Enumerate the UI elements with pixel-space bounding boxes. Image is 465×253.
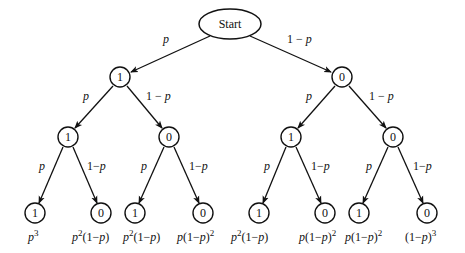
edge-l2a-l3b: [73, 147, 97, 203]
edge-label-p-l2c: p: [263, 159, 270, 173]
edge-l2c-l3f: [296, 147, 321, 203]
node-l3-3-label: 0: [200, 206, 206, 220]
edge-label-1mp-l1a: 1 − p: [146, 89, 171, 103]
start-node: Start: [199, 9, 261, 39]
level1-nodes: [110, 67, 352, 87]
edges: [39, 36, 423, 203]
node-l2-3-label: 0: [390, 130, 396, 144]
edge-start-to-1: [131, 36, 210, 72]
edge-label-1mp-l2b: 1−p: [189, 159, 208, 173]
edge-label-p-l2d: p: [365, 159, 372, 173]
node-l3-4-label: 1: [256, 206, 262, 220]
edge-label-p-root: p: [162, 32, 169, 46]
leaf-prob-0: p3: [27, 228, 39, 244]
edge-label-1mp-l2d: 1−p: [413, 159, 432, 173]
level2-nodes: [58, 127, 403, 147]
edge-label-p-l2b: p: [140, 159, 147, 173]
edge-l2d-l3h: [398, 147, 423, 203]
node-l3-7-label: 0: [424, 206, 430, 220]
level3-nodes: [25, 203, 437, 223]
edge-l2c-l3e: [263, 147, 286, 203]
leaf-prob-2: p2(1−p): [122, 228, 160, 244]
leaf-prob-1: p2(1−p): [71, 228, 109, 244]
edge-l2b-l3c: [139, 147, 164, 203]
probability-tree-diagram: Start 1 0 1 0 1 0 1 0 1 0 1 0 1 0 p 1 − …: [0, 0, 465, 253]
edge-l1a-l2a: [75, 86, 113, 128]
leaf-prob-7: (1−p)3: [405, 228, 437, 244]
edge-label-1mp-l2a: 1−p: [87, 159, 106, 173]
edge-label-1mp-root: 1 − p: [287, 32, 312, 46]
edge-l2b-l3d: [174, 147, 199, 203]
node-l1-1-label: 0: [339, 70, 345, 84]
edge-l2d-l3g: [363, 147, 388, 203]
start-label: Start: [219, 17, 242, 31]
node-l3-5-label: 0: [322, 206, 328, 220]
edge-label-p-l2a: p: [38, 159, 45, 173]
node-l3-1-label: 0: [98, 206, 104, 220]
leaf-prob-6: p(1−p)2: [344, 228, 382, 244]
edge-l1b-l2c: [298, 86, 335, 128]
leaf-prob-5: p(1−p)2: [298, 228, 336, 244]
leaf-prob-3: p(1−p)2: [176, 228, 214, 244]
edge-label-p-l1a: p: [82, 89, 89, 103]
node-l3-2-label: 1: [132, 206, 138, 220]
edge-label-1mp-l1b: 1 − p: [369, 89, 394, 103]
node-l2-1-label: 0: [166, 130, 172, 144]
edge-label-p-l1b: p: [305, 89, 312, 103]
node-l3-6-label: 1: [356, 206, 362, 220]
node-l3-0-label: 1: [32, 206, 38, 220]
node-l2-2-label: 1: [288, 130, 294, 144]
node-l2-0-label: 1: [65, 130, 71, 144]
edge-l2a-l3a: [39, 147, 63, 203]
edge-label-1mp-l2c: 1−p: [311, 159, 330, 173]
leaf-prob-4: p2(1−p): [230, 228, 268, 244]
node-l1-0-label: 1: [117, 70, 123, 84]
